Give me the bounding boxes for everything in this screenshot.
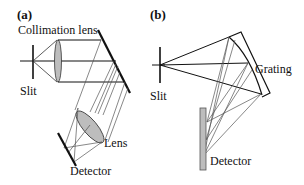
slit-label-b: Slit [150, 89, 167, 103]
lens-label: Lens [104, 136, 128, 150]
detector-b [200, 108, 206, 170]
panel-b-label: (b) [150, 7, 166, 22]
detector-a [58, 133, 76, 166]
panel-a: (a) Collimation lens Slit Lens Detector [17, 7, 130, 178]
panel-b: (b) Grating Slit Detector [150, 7, 292, 170]
spectrometer-diagram: (a) Collimation lens Slit Lens Detector [0, 0, 304, 185]
detector-label-b: Detector [210, 154, 251, 168]
collimation-lens [55, 40, 62, 82]
detector-label-a: Detector [70, 164, 111, 178]
collimation-lens-label: Collimation lens [18, 23, 98, 37]
panel-a-label: (a) [17, 7, 32, 22]
slit-label-a: Slit [20, 84, 37, 98]
